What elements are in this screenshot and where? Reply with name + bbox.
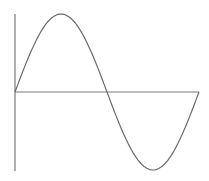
sine-wave-chart (0, 0, 209, 181)
